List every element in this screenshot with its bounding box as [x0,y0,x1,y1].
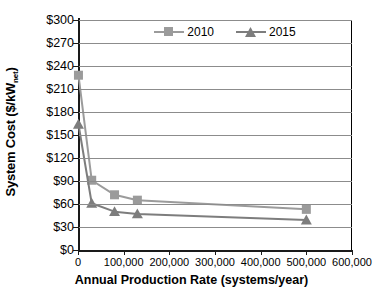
plot-area [78,20,352,250]
y-tick-mark [73,20,79,21]
gridline [78,227,352,228]
data-point-square[interactable] [302,205,311,214]
gridline [78,66,352,67]
y-tick-label: $150 [28,129,74,141]
y-axis-title: System Cost ($/kWnet) [2,12,20,252]
data-point-square[interactable] [74,71,83,80]
data-point-triangle[interactable] [86,198,97,208]
legend-marker-triangle-icon [236,26,266,38]
y-tick-mark [73,135,79,136]
x-tick-label: 100,000 [104,256,144,268]
x-tick-label: 0 [75,256,81,268]
x-axis-title: Annual Production Rate (systems/year) [0,273,383,287]
x-tick-mark [306,250,307,255]
legend-label-2015: 2015 [269,26,296,38]
y-axis-title-suffix: ) [3,67,18,71]
y-tick-label: $240 [28,60,74,72]
data-point-triangle[interactable] [73,119,84,129]
x-tick-label: 300,000 [195,256,235,268]
y-tick-mark [73,66,79,67]
gridline [78,204,352,205]
chart-figure: System Cost ($/kWnet) $0$30$60$90$120$15… [0,0,383,294]
legend-marker-square-icon [154,26,184,38]
gridline [78,43,352,44]
legend-item-2010[interactable]: 2010 [154,26,214,38]
y-axis-title-main: System Cost ($/kW [3,83,18,197]
gridline [78,158,352,159]
y-axis-title-subscript: net [11,72,20,83]
gridline [78,112,352,113]
y-tick-mark [73,204,79,205]
y-tick-mark [73,158,79,159]
legend-item-2015[interactable]: 2015 [236,26,296,38]
x-tick-mark [352,250,353,255]
y-tick-mark [73,112,79,113]
data-point-square[interactable] [110,190,119,199]
gridline [78,20,352,21]
y-tick-label: $0 [28,244,74,256]
x-tick-mark [261,250,262,255]
series-line-2010 [78,75,306,209]
y-tick-label: $60 [28,198,74,210]
y-tick-label: $210 [28,83,74,95]
gridline [78,181,352,182]
y-tick-label: $30 [28,221,74,233]
x-tick-label: 500,000 [286,256,326,268]
y-tick-label: $180 [28,106,74,118]
legend-label-2010: 2010 [187,26,214,38]
y-tick-label: $300 [28,14,74,26]
x-tick-label: 200,000 [149,256,189,268]
x-tick-label: 400,000 [241,256,281,268]
gridline [78,89,352,90]
y-tick-mark [73,43,79,44]
x-tick-mark [169,250,170,255]
x-tick-mark [124,250,125,255]
y-tick-mark [73,89,79,90]
y-tick-mark [73,227,79,228]
y-tick-mark [73,181,79,182]
y-tick-label: $270 [28,37,74,49]
y-tick-label: $90 [28,175,74,187]
y-axis-tick-labels: $0$30$60$90$120$150$180$210$240$270$300 [22,0,74,294]
chart-legend: 2010 2015 [150,24,300,40]
series-line-2015 [78,124,306,220]
x-tick-mark [78,250,79,255]
gridline [78,135,352,136]
x-tick-label: 600,000 [332,256,372,268]
x-tick-mark [215,250,216,255]
y-tick-label: $120 [28,152,74,164]
